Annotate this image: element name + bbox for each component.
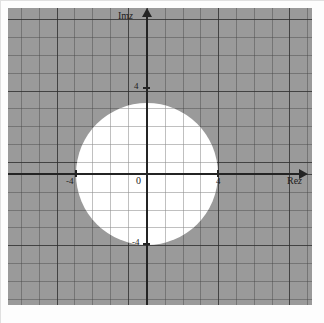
imaginary-axis-label-variable: z [129,10,133,21]
real-axis-label-prefix: Re [287,175,298,186]
tick-mark-real-negative-4 [75,170,77,177]
real-axis-label: Rez [287,176,302,186]
imaginary-axis-label: Imz [118,11,133,21]
imaginary-axis-line [146,14,148,305]
tick-label-real-negative-4: -4 [66,177,74,186]
imaginary-axis-label-prefix: Im [118,10,129,21]
tick-mark-imaginary-positive-4 [143,87,150,89]
real-axis-label-variable: z [298,175,302,186]
plot-area [8,8,312,305]
real-axis-line [8,173,301,175]
imaginary-axis-arrow-icon [142,8,152,17]
tick-label-imaginary-positive-4: 4 [134,82,139,91]
figure-canvas: Imz Rez -4 4 0 4 -4 [0,0,324,323]
tick-label-imaginary-negative-4: -4 [132,238,140,247]
origin-label: 0 [136,176,141,186]
tick-label-real-positive-4: 4 [216,177,221,186]
tick-mark-imaginary-negative-4 [143,243,150,245]
